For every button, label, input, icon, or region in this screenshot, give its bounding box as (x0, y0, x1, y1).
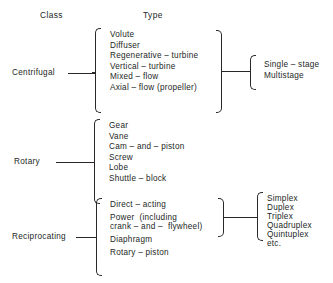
brace-centrifugal-types-open (95, 28, 101, 113)
class-label-centrifugal: Centrifugal (12, 68, 55, 77)
list-item: Lobe (109, 163, 185, 172)
brace-centrifugal-stages-open (250, 55, 256, 90)
list-item: etc. (267, 239, 312, 248)
list-item: Cam – and – piston (109, 142, 185, 151)
list-item: Quintuplex (267, 230, 312, 239)
list-item: Gear (109, 121, 185, 130)
list-item: Triplex (267, 212, 312, 221)
list-item: Simplex (267, 194, 312, 203)
list-item: Vertical – turbine (110, 62, 198, 71)
list-item: Single – stage (264, 60, 319, 69)
list-item: Axial – flow (propeller) (110, 83, 198, 92)
list-item: Screw (109, 153, 185, 162)
list-item: crank – and – flywheel) (110, 222, 202, 231)
brace-reciprocating-types-open (96, 198, 102, 276)
class-label-reciprocating: Reciprocating (12, 232, 66, 241)
brace-rotary-types-nub (91, 162, 94, 163)
list-item: Multistage (264, 71, 319, 80)
list-item: Direct – acting (110, 200, 202, 209)
brace-centrifugal-stages-nub (247, 71, 250, 72)
type-list-reciprocating: Direct – acting Power (including crank –… (110, 200, 202, 257)
pump-classification-diagram: Class Type Centrifugal Volute Diffuser R… (0, 0, 333, 283)
brace-reciprocating-plex-nub (254, 217, 257, 218)
list-item: Duplex (267, 203, 312, 212)
column-header-type: Type (143, 10, 163, 20)
type-list-centrifugal: Volute Diffuser Regenerative – turbine V… (110, 30, 198, 92)
list-item: Diaphragm (110, 235, 202, 244)
connector-centrifugal (68, 73, 95, 74)
list-item: Volute (110, 30, 198, 39)
list-item: Vane (109, 132, 185, 141)
type-list-rotary: Gear Vane Cam – and – piston Screw Lobe … (109, 121, 185, 183)
column-header-class: Class (40, 10, 63, 20)
list-item: Regenerative – turbine (110, 51, 198, 60)
connector-reciprocating-plex (226, 217, 257, 218)
brace-rotary-types-open (94, 119, 100, 204)
connector-rotary (56, 162, 94, 163)
stage-list-centrifugal: Single – stage Multistage (264, 60, 319, 80)
brace-reciprocating-plex-open (257, 192, 263, 241)
brace-centrifugal-types-nub (92, 72, 95, 73)
list-item: Diffuser (110, 41, 198, 50)
list-item: Mixed – flow (110, 72, 198, 81)
list-item: Rotary – piston (110, 248, 202, 257)
list-item: Quadruplex (267, 221, 312, 230)
brace-reciprocating-types-nub (93, 237, 96, 238)
plex-list-reciprocating: Simplex Duplex Triplex Quadruplex Quintu… (267, 194, 312, 248)
class-label-rotary: Rotary (14, 157, 40, 166)
list-item: Power (including (110, 213, 202, 222)
list-item: Shuttle – block (109, 174, 185, 183)
